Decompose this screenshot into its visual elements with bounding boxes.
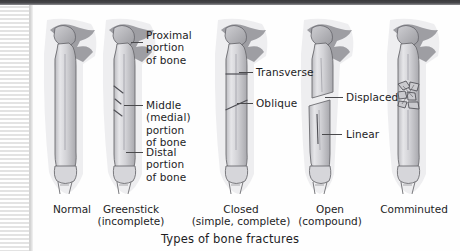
leader-oblique — [237, 103, 253, 104]
specimen-label-open: Open — [288, 203, 372, 215]
annotation-linear: Linear — [346, 128, 379, 140]
bone-illustration-open — [290, 14, 368, 197]
specimen-label-comminuted: Comminuted — [368, 203, 460, 215]
figure-page: Proximal portion of bone Middle (medial)… — [0, 0, 460, 251]
scan-top-bar — [0, 0, 460, 5]
specimen-label-greenstick: Greenstick — [88, 203, 174, 215]
annotation-displaced: Displaced — [346, 91, 398, 103]
annotation-distal: Distal portion of bone — [146, 146, 186, 183]
leader-displaced — [325, 97, 343, 98]
specimen-open — [290, 14, 368, 197]
scan-spine-stripes — [0, 0, 30, 251]
leader-transverse — [239, 72, 253, 73]
specimen-label-closed-sub: (simple, complete) — [176, 215, 306, 227]
proximal-segment — [312, 43, 333, 98]
leader-linear — [322, 134, 342, 135]
bone-illustration-comminuted — [376, 14, 454, 197]
annotation-transverse: Transverse — [256, 66, 314, 78]
leader-distal — [126, 152, 143, 153]
specimen-label-closed: Closed — [176, 203, 306, 215]
specimen-label-greenstick-sub: (incomplete) — [88, 215, 174, 227]
specimen-label-open-sub: (compound) — [288, 215, 372, 227]
annotation-proximal: Proximal portion of bone — [146, 29, 192, 66]
figure-caption: Types of bone fractures — [0, 232, 460, 246]
leader-middle — [124, 105, 143, 106]
annotation-oblique: Oblique — [256, 97, 297, 109]
annotation-middle: Middle (medial) portion of bone — [146, 99, 191, 148]
leader-proximal — [131, 42, 143, 43]
specimen-comminuted — [376, 14, 454, 197]
